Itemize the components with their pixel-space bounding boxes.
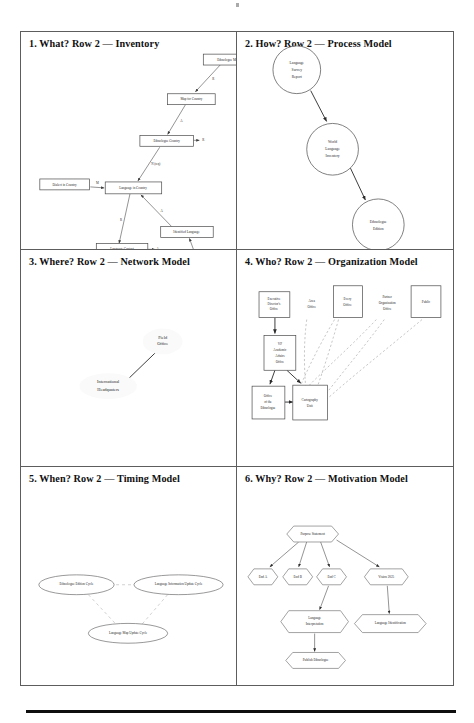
- edge-every-office-to-office-of-the-ethnologue: [297, 319, 335, 395]
- node-partner-organization-office[interactable]: Partner Organization Office Partner Orga…: [369, 289, 405, 317]
- node-language-survey-report[interactable]: Language Survey Report Language Survey R…: [273, 46, 321, 94]
- node-area-office[interactable]: Area Office Area Office: [299, 291, 326, 317]
- svg-text:Office: Office: [157, 341, 168, 346]
- node-international-headquaters[interactable]: International Headquaters International …: [79, 373, 136, 399]
- node-cartography-unit[interactable]: Cartography Unit Cartography Unit: [293, 385, 328, 420]
- svg-text:N (req): N (req): [151, 162, 160, 166]
- edge-partner-office-to-cartography-unit: [321, 319, 385, 401]
- node-language-in-country[interactable]: Language in Country: [105, 182, 161, 194]
- node-end-a[interactable]: End A: [248, 569, 278, 585]
- svg-text:Inventory: Inventory: [325, 154, 339, 158]
- svg-text:Interpretation: Interpretation: [306, 623, 324, 627]
- node-ethnologue-edition-cycle[interactable]: Ethnologue Edition Cycle: [39, 575, 114, 595]
- edge-vision-2025-to-language-identification: [387, 586, 389, 614]
- svg-text:A: A: [180, 119, 183, 123]
- svg-text:VP: VP: [278, 342, 282, 346]
- svg-text:Area: Area: [309, 299, 316, 303]
- svg-text:Every: Every: [344, 297, 352, 301]
- node-language-contact[interactable]: Language Contact: [96, 243, 148, 248]
- svg-text:Language Contact: Language Contact: [110, 247, 134, 249]
- panel-what-diagram: R A N (req) M R: [21, 32, 236, 249]
- model-grid: 1. What? Row 2 — Inventory R A: [20, 31, 454, 686]
- node-language-interpretation[interactable]: Language Interpretation Language Interpr…: [281, 611, 349, 633]
- panel-why-diagram: Purpose Statement End A End B End C Visi…: [237, 467, 453, 685]
- edge-ethnologue-map-to-map-for-country: R: [195, 65, 220, 92]
- node-world-language-inventory[interactable]: World Language Inventory World Language …: [307, 123, 359, 175]
- panel-when-diagram: Ethnologue Edition Cycle Language Inform…: [21, 467, 236, 685]
- node-office-of-the-ethnologue[interactable]: Office of the Ethnologue Office of the E…: [252, 386, 285, 419]
- node-ethnologue-map[interactable]: Ethnologue Map: [203, 54, 236, 65]
- edge-linguistic-subgroup-to-identified-language: A: [189, 238, 204, 248]
- node-vp-academic-affairs-office[interactable]: VP Academic Affairs Office VP Academic A…: [264, 335, 296, 370]
- svg-text:Executive: Executive: [267, 297, 281, 301]
- panel-why: 6. Why? Row 2 — Motivation Model: [237, 467, 453, 685]
- edge-vp-office-to-office-of-the-ethnologue: [270, 370, 275, 384]
- svg-text:Cartography: Cartography: [302, 397, 319, 401]
- edge-language-in-country-to-language-contact: R: [119, 194, 130, 244]
- panel-how-diagram: Language Survey Report Language Survey R…: [237, 32, 453, 249]
- panel-where: 3. Where? Row 2 — Network Model Field Of…: [21, 250, 237, 468]
- edge-information-update-cycle-to-map-update-cycle: [142, 595, 168, 625]
- edge-purpose-to-end-c: [321, 542, 330, 567]
- node-language-information-update-cycle[interactable]: Language Information Update Cycle: [134, 575, 223, 595]
- edge-identified-language-to-language-in-country: A: [141, 195, 172, 227]
- node-language-map-update-cycle[interactable]: Language Map Update Cycle: [88, 624, 167, 644]
- node-every-office[interactable]: Every Office Every Office: [334, 285, 363, 317]
- edge-headquaters-to-field-office: [128, 351, 157, 379]
- edge-public-to-cartography-unit: [325, 319, 422, 401]
- svg-text:Dialect in Country: Dialect in Country: [52, 183, 77, 187]
- panel-what: 1. What? Row 2 — Inventory R A: [21, 32, 237, 250]
- svg-text:Organization: Organization: [379, 301, 396, 305]
- svg-text:Office: Office: [383, 307, 392, 311]
- svg-text:Ethnologue Edition Cycle: Ethnologue Edition Cycle: [60, 583, 94, 587]
- node-identified-language[interactable]: Identified Language: [161, 227, 214, 238]
- svg-text:A: A: [161, 209, 164, 213]
- panel-who: 4. Who? Row 2 — Organization Model: [237, 250, 453, 468]
- panel-how: 2. How? Row 2 — Process Model: [237, 32, 453, 250]
- node-publish-ethnologue[interactable]: Publish Ethnologue: [286, 653, 346, 669]
- edge-survey-to-world-inventory: [311, 91, 327, 122]
- svg-text:Edition: Edition: [373, 227, 384, 231]
- svg-text:International: International: [97, 379, 120, 384]
- svg-text:Ethnologue Country: Ethnologue Country: [153, 139, 180, 143]
- svg-text:Office: Office: [343, 303, 352, 307]
- edge-purpose-to-end-b: [299, 542, 307, 567]
- edge-ethnologue-country-to-language-in-country: N (req): [138, 147, 160, 181]
- svg-text:Report: Report: [292, 75, 302, 79]
- svg-text:M: M: [96, 181, 99, 185]
- svg-text:of the: of the: [264, 399, 272, 403]
- svg-text:Partner: Partner: [383, 295, 393, 299]
- edge-purpose-to-vision-2025: [337, 540, 380, 567]
- edge-map-for-country-to-ethnologue-country: A: [168, 105, 186, 135]
- edge-end-c-to-language-interpretation: [320, 586, 329, 610]
- svg-text:Language: Language: [308, 617, 321, 621]
- svg-text:R: R: [120, 218, 123, 222]
- svg-text:End B: End B: [294, 575, 303, 579]
- node-ethnologue-edition[interactable]: Ethnologue Edition Ethnologue Edition: [352, 199, 404, 249]
- scan-artifact-speck: [236, 3, 239, 7]
- edge-world-inventory-to-ethnologue-edition: [350, 168, 365, 200]
- node-public[interactable]: Public: [411, 285, 441, 317]
- svg-text:World: World: [328, 140, 337, 144]
- edge-purpose-to-end-a: [270, 542, 299, 567]
- svg-text:Identified Language: Identified Language: [173, 230, 200, 234]
- node-vision-2025[interactable]: Vision 2025: [364, 569, 408, 585]
- node-language-identification[interactable]: Language Identification: [354, 615, 426, 633]
- svg-text:Survey: Survey: [292, 68, 303, 72]
- document-page: 1. What? Row 2 — Inventory R A: [0, 0, 474, 723]
- footer-rule: [26, 710, 456, 713]
- node-field-office[interactable]: Field Office Field Office: [143, 328, 183, 354]
- node-end-b[interactable]: End B: [283, 569, 313, 585]
- svg-text:Headquaters: Headquaters: [97, 387, 119, 392]
- node-map-for-country[interactable]: Map for Country: [168, 94, 216, 105]
- svg-text:Language Information Update Cy: Language Information Update Cycle: [155, 583, 203, 587]
- node-ethnologue-country[interactable]: Ethnologue Country: [140, 135, 194, 146]
- svg-text:Academic: Academic: [273, 348, 287, 352]
- node-dialect-in-country[interactable]: Dialect in Country: [40, 179, 90, 190]
- svg-text:Map for Country: Map for Country: [180, 97, 202, 101]
- svg-text:Language Map Update Cycle: Language Map Update Cycle: [109, 631, 148, 635]
- svg-text:A: A: [157, 247, 160, 249]
- node-executive-directors-office[interactable]: Executive Director's Office Executive Di…: [259, 291, 290, 317]
- node-purpose-statement[interactable]: Purpose Statement: [287, 526, 339, 542]
- node-end-c[interactable]: End C: [317, 569, 347, 585]
